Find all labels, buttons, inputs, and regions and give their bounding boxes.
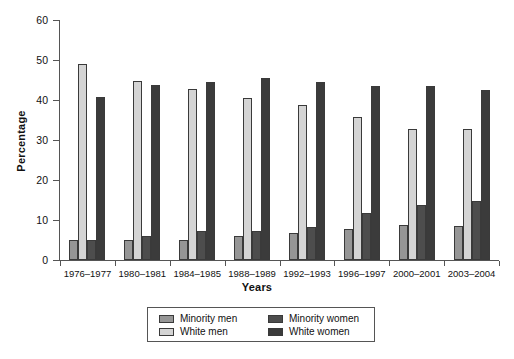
bar <box>463 129 472 260</box>
legend-entry-white-women: White women <box>263 325 374 338</box>
legend-label: White men <box>180 326 228 337</box>
bar-group <box>124 20 160 260</box>
legend-row: White men White women <box>148 325 374 338</box>
bar <box>307 227 316 260</box>
bar <box>243 98 252 260</box>
bar <box>353 117 362 260</box>
legend-entry-minority-women: Minority women <box>263 312 374 325</box>
legend-label: White women <box>289 326 350 337</box>
bar-group <box>69 20 105 260</box>
bar <box>417 205 426 260</box>
bar <box>197 231 206 260</box>
bar <box>87 240 96 260</box>
legend-swatch-icon <box>268 315 283 323</box>
bar <box>188 89 197 260</box>
bar <box>362 213 371 260</box>
bar <box>206 82 215 260</box>
x-tick-mark <box>389 261 390 266</box>
plot-area <box>60 20 499 260</box>
bar <box>371 86 380 260</box>
legend-entry-minority-men: Minority men <box>148 312 263 325</box>
y-tick-mark <box>53 100 59 101</box>
bar <box>69 240 78 260</box>
bar-group <box>344 20 380 260</box>
y-tick-mark <box>53 60 59 61</box>
y-tick-label: 60 <box>8 15 48 25</box>
chart-legend: Minority men Minority women White men Wh… <box>147 307 375 342</box>
legend-label: Minority women <box>289 313 359 324</box>
bar <box>124 240 133 260</box>
x-tick-mark <box>60 261 61 266</box>
bar <box>78 64 87 260</box>
bar-group <box>289 20 325 260</box>
bar <box>316 82 325 260</box>
y-tick-label: 40 <box>8 95 48 105</box>
x-tick-mark <box>334 261 335 266</box>
legend-label: Minority men <box>180 313 237 324</box>
y-tick-label: 0 <box>8 255 48 265</box>
bar <box>252 231 261 260</box>
bar <box>408 129 417 260</box>
bar <box>96 97 105 260</box>
x-tick-mark <box>115 261 116 266</box>
bar <box>298 105 307 260</box>
bar <box>399 225 408 260</box>
legend-swatch-icon <box>159 315 174 323</box>
y-tick-mark <box>53 220 59 221</box>
x-tick-mark <box>170 261 171 266</box>
bar <box>289 233 298 260</box>
bar <box>454 226 463 260</box>
x-axis-title: Years <box>0 281 514 293</box>
bar <box>344 229 353 260</box>
bar-group <box>234 20 270 260</box>
y-tick-label: 50 <box>8 55 48 65</box>
bar <box>133 81 142 260</box>
x-tick-label: 2003–2004 <box>434 268 510 279</box>
y-tick-mark <box>53 260 59 261</box>
y-tick-mark <box>53 140 59 141</box>
legend-entry-white-men: White men <box>148 325 263 338</box>
x-tick-mark <box>444 261 445 266</box>
bar <box>179 240 188 260</box>
bar <box>472 201 481 260</box>
y-tick-label: 30 <box>8 135 48 145</box>
bar <box>261 78 270 260</box>
y-tick-label: 10 <box>8 215 48 225</box>
legend-swatch-icon <box>268 328 283 336</box>
bar <box>234 236 243 260</box>
y-tick-label: 20 <box>8 175 48 185</box>
y-tick-mark <box>53 20 59 21</box>
x-tick-mark <box>499 261 500 266</box>
bar-group <box>454 20 490 260</box>
legend-row: Minority men Minority women <box>148 312 374 325</box>
bar-group <box>399 20 435 260</box>
bar <box>426 86 435 260</box>
legend-swatch-icon <box>159 328 174 336</box>
bar-chart-figure: Percentage 0102030405060 1976–19771980–1… <box>0 0 514 359</box>
y-tick-mark <box>53 180 59 181</box>
bar <box>481 90 490 260</box>
x-tick-mark <box>225 261 226 266</box>
x-tick-mark <box>280 261 281 266</box>
bar <box>142 236 151 260</box>
bar-group <box>179 20 215 260</box>
bar <box>151 85 160 260</box>
